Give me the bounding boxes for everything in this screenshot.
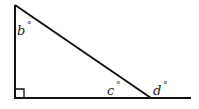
triangle-diagram: b ° c ° d °: [0, 0, 199, 109]
right-angle-marker: [15, 89, 24, 98]
angle-c-degree: °: [116, 80, 121, 90]
angle-d-label: d: [153, 83, 161, 98]
angle-b-degree: °: [27, 20, 32, 30]
hypotenuse: [15, 5, 151, 98]
angle-c-label: c: [107, 83, 115, 98]
angle-d-degree: °: [163, 80, 168, 90]
angle-b-label: b: [17, 23, 25, 38]
